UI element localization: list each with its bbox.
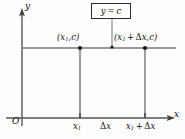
- point-right-x-sub: 1: [122, 36, 125, 42]
- function-label-box: y = c: [91, 3, 131, 19]
- x-tick-label-x1-plus-dx: x1+Δx: [126, 122, 155, 131]
- constant-function-diagram: y x O y = c (x1,c) (x1+Δx,c) x1 Δx x1+Δx: [0, 0, 185, 139]
- point-right-y: c: [149, 32, 154, 42]
- point-label-right: (x1+Δx,c): [114, 33, 157, 42]
- function-label-text: y = c: [92, 4, 130, 18]
- tick-x1dx-delta-var: x: [150, 121, 155, 131]
- function-label-equals: =: [107, 6, 114, 16]
- diagram-canvas: [0, 0, 185, 139]
- y-axis-label: y: [25, 2, 30, 11]
- tick-x1dx-plus: +: [136, 121, 143, 131]
- function-label-lhs: y: [101, 6, 106, 16]
- delta-x-label: Δx: [100, 122, 111, 131]
- point-left-y: c: [71, 32, 76, 42]
- tick-x1-sub: 1: [78, 125, 81, 131]
- point-label-left: (x1,c): [57, 33, 79, 42]
- x-axis-label: x: [174, 110, 179, 119]
- tick-x1dx-sub: 1: [131, 125, 134, 131]
- x-tick-label-x1: x1: [73, 122, 81, 131]
- function-label-rhs: c: [117, 6, 122, 16]
- y-axis: [19, 8, 25, 126]
- delta-x-var: x: [106, 121, 111, 131]
- leader-line-endpoint: [110, 45, 113, 48]
- origin-label: O: [12, 117, 19, 126]
- point-marker-right: [143, 46, 147, 50]
- point-right-plus: +: [127, 32, 134, 42]
- point-marker-left: [78, 46, 82, 50]
